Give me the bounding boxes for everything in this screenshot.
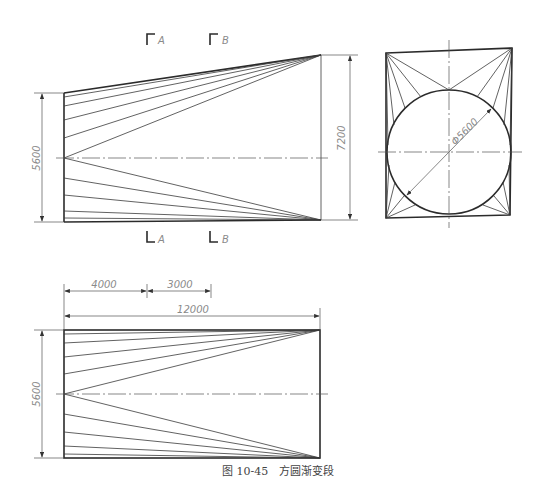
dim-text-diameter: Φ5600 xyxy=(449,116,480,147)
svg-text:A: A xyxy=(157,35,165,46)
plan-upper-fan xyxy=(64,330,320,394)
side-view: Φ5600 xyxy=(378,40,522,228)
side-fan-bottom-right xyxy=(483,165,510,215)
svg-text:A: A xyxy=(157,234,165,245)
svg-text:B: B xyxy=(222,35,229,46)
figure-caption: 图 10-45 方圆渐变段 xyxy=(222,462,334,478)
svg-text:B: B xyxy=(222,234,229,245)
plan-view: 4000 3000 12000 5600 xyxy=(31,279,328,458)
dim-text-segment-2: 3000 xyxy=(167,279,192,290)
dim-segment-1: 4000 xyxy=(65,279,146,291)
front-upper-fan xyxy=(64,55,321,158)
section-mark-b-bottom: B xyxy=(210,231,229,245)
front-lower-fan xyxy=(64,158,321,220)
dim-text-overall-length: 12000 xyxy=(177,304,209,315)
plan-lower-fan xyxy=(64,394,320,458)
drawing-canvas: 5600 7200 A B A B xyxy=(0,0,544,492)
dim-segment-2: 3000 xyxy=(148,279,210,291)
section-mark-b-top: B xyxy=(210,34,229,46)
front-view: 5600 7200 A B A B xyxy=(31,34,358,245)
section-mark-a-top: A xyxy=(147,34,165,46)
section-mark-a-bottom: A xyxy=(147,231,165,245)
dim-text-left-height: 5600 xyxy=(31,145,42,170)
front-bottom-edge xyxy=(64,220,321,222)
dim-overall-length: 12000 xyxy=(65,304,319,316)
dim-text-segment-1: 4000 xyxy=(91,279,116,290)
dim-left-height: 5600 xyxy=(31,93,64,222)
dim-text-plan-height: 5600 xyxy=(31,381,42,406)
dim-right-height: 7200 xyxy=(321,55,358,220)
dim-text-right-height: 7200 xyxy=(336,125,347,150)
